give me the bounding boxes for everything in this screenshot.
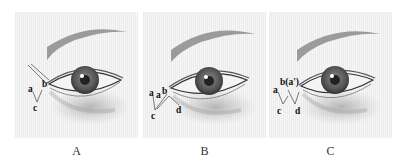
label-d: d (295, 106, 301, 116)
label-a-outer: a (149, 88, 154, 98)
caption-c: C (269, 144, 392, 159)
eye-illustration-b: a a b c d (143, 12, 266, 138)
label-c: c (277, 106, 281, 116)
label-a: a (273, 85, 278, 95)
label-b: b (42, 79, 47, 89)
label-a-inner: a (156, 90, 161, 100)
caption-a: A (15, 144, 138, 159)
label-b: b (162, 86, 167, 96)
eyebrow (47, 29, 127, 60)
panel-b: a a b c d (143, 12, 266, 138)
label-c: c (151, 111, 155, 121)
label-d: d (176, 105, 182, 115)
label-b-a-prime: b(a') (280, 77, 299, 88)
eye-illustration-c: a b(a') c d (269, 12, 392, 138)
label-a: a (28, 84, 33, 94)
eye-illustration-a: a b c (15, 12, 138, 138)
panel-c: a b(a') c d (269, 12, 392, 138)
panel-a: a b c (15, 12, 138, 138)
label-c: c (33, 103, 37, 113)
caption-b: B (143, 144, 266, 159)
